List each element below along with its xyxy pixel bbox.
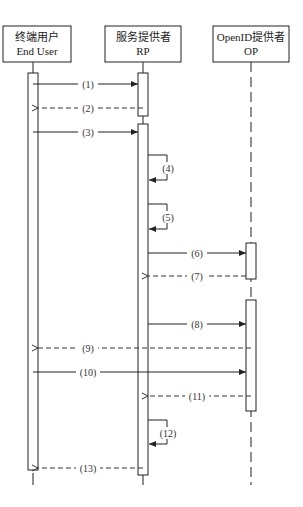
message-label: (10) [80,367,97,379]
message-label: (9) [82,343,94,355]
message-label: (8) [191,319,203,331]
participant-end-user: 终端用户 End User [3,26,71,62]
message-label: (11) [189,391,205,403]
message-label: (6) [191,248,203,260]
message-label: (5) [162,212,174,224]
activation-op-2 [246,300,256,411]
participant-rp: 服务提供者 RP [105,26,181,62]
message-label: (13) [80,463,97,475]
message-label: (1) [82,79,94,91]
activation-op-1 [246,243,256,279]
participant-name-en: OP [244,45,258,57]
participant-name-cn: 服务提供者 [116,30,171,43]
participant-name-en: End User [16,45,58,57]
participant-name-cn: OpenID提供者 [217,30,285,43]
message-label: (2) [82,103,94,115]
message-label: (3) [82,127,94,139]
message-label: (7) [191,271,203,283]
participant-name-en: RP [136,45,149,57]
activation-end-user [28,73,38,470]
activation-rp-1 [138,73,148,116]
sequence-diagram: 终端用户 End User 服务提供者 RP OpenID提供者 OP (1) … [0,0,303,507]
message-label: (4) [162,163,174,175]
message-label: (12) [160,428,177,440]
participant-op: OpenID提供者 OP [213,26,289,62]
activation-rp-2 [138,124,148,475]
participant-name-cn: 终端用户 [15,30,59,43]
